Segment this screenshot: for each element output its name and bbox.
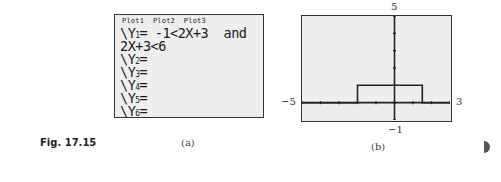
series-line	[302, 85, 450, 102]
caption-a: (a)	[181, 137, 195, 148]
page-marker-icon	[484, 141, 490, 153]
xmax-label: 3	[456, 96, 462, 107]
calculator-graph-screen	[301, 15, 452, 122]
graph-plot	[302, 16, 450, 120]
y6-line: \Y6=	[120, 105, 147, 120]
ymin-label: −1	[388, 124, 403, 135]
caption-b: (b)	[371, 141, 385, 152]
calculator-y-editor-screen: Plot1 Plot2 Plot3 \Y1= -1<2X+3 and 2X+3<…	[114, 14, 264, 118]
plot-header: Plot1 Plot2 Plot3	[122, 17, 206, 25]
figure-label: Fig. 17.15	[40, 137, 96, 148]
xmin-label: −5	[281, 96, 296, 107]
ymax-label: 5	[391, 1, 397, 12]
